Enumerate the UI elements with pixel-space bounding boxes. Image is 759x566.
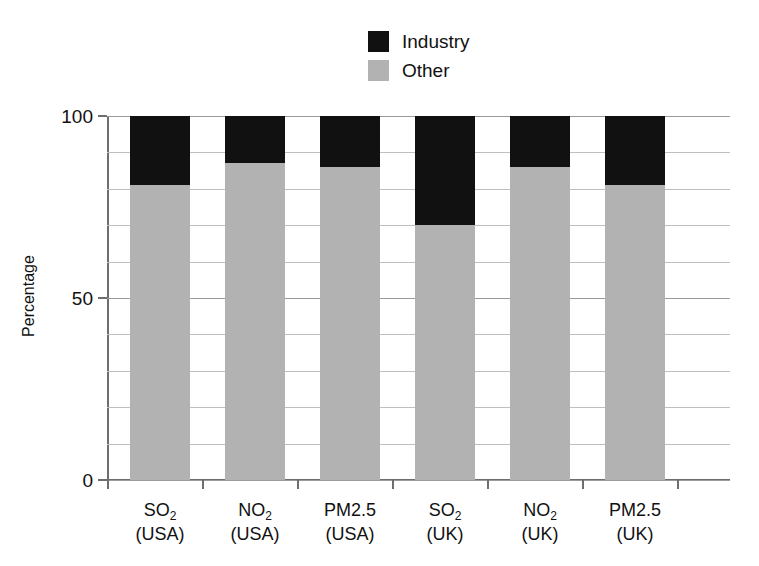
bar-segment-industry [320, 116, 380, 167]
plot-area: 050100 SO2(USA)NO2(USA)PM2.5(USA)SO2(UK)… [107, 116, 730, 480]
bar-segment-industry [605, 116, 665, 185]
x-tick-mark [107, 480, 109, 489]
x-tick-mark [202, 480, 204, 489]
x-tick-label-subscript: 2 [170, 509, 177, 523]
legend-swatch-industry-icon [368, 31, 389, 52]
y-axis-title: Percentage [18, 114, 40, 478]
x-tick-label-pollutant: PM2.5 [570, 498, 700, 522]
x-tick-label-subscript: 2 [550, 509, 557, 523]
x-tick-label-subscript: 2 [455, 509, 462, 523]
bar-group [510, 116, 570, 480]
legend-swatch-other-icon [368, 60, 389, 81]
bar-segment-industry [415, 116, 475, 225]
x-tick-mark [582, 480, 584, 489]
legend-item-other: Other [368, 56, 628, 85]
y-tick-mark [98, 479, 107, 481]
x-tick-label-subscript: 2 [265, 509, 272, 523]
bar-group [415, 116, 475, 480]
bar-segment-industry [130, 116, 190, 185]
bar-segment-other [225, 163, 285, 480]
y-tick-mark [98, 297, 107, 299]
legend-label-industry: Industry [402, 32, 470, 51]
y-tick-label: 100 [61, 107, 93, 126]
bar-group [225, 116, 285, 480]
bar-group [605, 116, 665, 480]
y-tick-label: 50 [72, 289, 93, 308]
bar-group [130, 116, 190, 480]
x-tick-label-region: (UK) [570, 522, 700, 546]
bar-segment-other [130, 185, 190, 480]
y-tick-mark [98, 115, 107, 117]
x-tick-mark [392, 480, 394, 489]
y-tick-label: 0 [82, 471, 93, 490]
bar-segment-other [320, 167, 380, 480]
x-tick-mark [297, 480, 299, 489]
bar-segment-other [510, 167, 570, 480]
x-tick-mark [677, 480, 679, 489]
bar-group [320, 116, 380, 480]
stacked-bar-chart: Industry Other Percentage 050100 SO2(USA… [0, 0, 759, 566]
bar-segment-industry [225, 116, 285, 163]
bar-segment-other [605, 185, 665, 480]
bar-segment-industry [510, 116, 570, 167]
legend-item-industry: Industry [368, 27, 628, 56]
chart-legend: Industry Other [368, 27, 628, 85]
x-tick-mark [487, 480, 489, 489]
legend-label-other: Other [402, 61, 450, 80]
bar-segment-other [415, 225, 475, 480]
x-tick-label: PM2.5(UK) [570, 498, 700, 546]
gridline [107, 480, 730, 481]
